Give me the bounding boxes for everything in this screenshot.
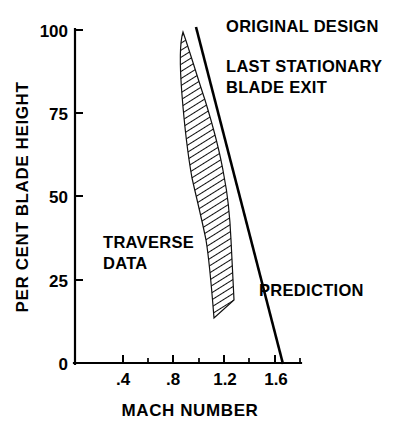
x-axis-title: MACH NUMBER <box>122 401 259 420</box>
annotation-traverse-data-line2: DATA <box>103 254 148 272</box>
annotation-original-design: ORIGINAL DESIGN <box>226 17 379 35</box>
y-tick-label-50: 50 <box>49 188 68 207</box>
y-axis-title: PER CENT BLADE HEIGHT <box>13 82 32 313</box>
annotation-last-stationary-line1: LAST STATIONARY <box>226 57 382 75</box>
x-tick-labels: .4 .8 1.2 1.6 <box>116 370 288 389</box>
x-tick-label-0.4: .4 <box>116 370 131 389</box>
annotation-last-stationary-line2: BLADE EXIT <box>226 78 327 96</box>
x-tick-label-1.6: 1.6 <box>264 370 288 389</box>
y-tick-label-25: 25 <box>49 272 68 291</box>
chart-canvas: 100 75 50 25 0 .4 .8 1.2 1.6 PER CENT BL… <box>0 0 406 434</box>
y-tick-label-0: 0 <box>59 355 68 374</box>
chart-figure: 100 75 50 25 0 .4 .8 1.2 1.6 PER CENT BL… <box>0 0 406 434</box>
y-tick-labels: 100 75 50 25 0 <box>40 22 68 374</box>
annotation-prediction: PREDICTION <box>259 281 364 299</box>
x-tick-label-1.2: 1.2 <box>213 370 237 389</box>
y-tick-label-100: 100 <box>40 22 68 41</box>
x-tick-label-0.8: .8 <box>166 370 180 389</box>
annotation-traverse-data-line1: TRAVERSE <box>103 233 194 251</box>
y-tick-label-75: 75 <box>49 105 68 124</box>
